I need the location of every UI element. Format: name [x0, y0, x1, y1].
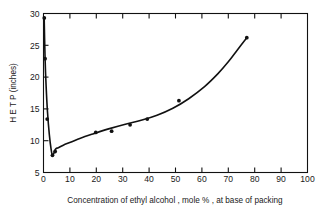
x-tick-label: 40 [144, 174, 154, 184]
data-point [51, 153, 55, 157]
x-tick-label: 90 [276, 174, 286, 184]
data-point [128, 123, 132, 127]
chart-figure: 0102030405060708090100 51015202530 Conce… [0, 0, 336, 214]
hetp-vs-concentration-chart: 0102030405060708090100 51015202530 Conce… [0, 0, 336, 214]
y-axis-label: H E T P (inches) [9, 63, 18, 123]
data-point [145, 117, 149, 121]
x-tick-label: 30 [118, 174, 128, 184]
data-point [110, 129, 114, 133]
data-point [94, 131, 98, 135]
x-tick-label: 100 [300, 174, 315, 184]
y-tick-label: 30 [30, 9, 40, 19]
x-axis-label: Concentration of ethyl alcohol , mole % … [67, 196, 283, 205]
data-point [53, 150, 57, 154]
data-point [245, 36, 249, 40]
data-point [177, 99, 181, 103]
data-point [42, 16, 46, 20]
x-tick-label: 60 [197, 174, 207, 184]
y-tick-label: 5 [35, 168, 40, 178]
x-tick-label: 10 [65, 174, 75, 184]
x-tick-label: 0 [41, 174, 46, 184]
x-tick-label: 80 [250, 174, 260, 184]
data-point [43, 57, 47, 61]
y-tick-label: 15 [30, 104, 40, 114]
x-tick-label: 20 [92, 174, 102, 184]
x-tick-label: 50 [171, 174, 181, 184]
y-tick-label: 10 [30, 136, 40, 146]
y-tick-label: 25 [30, 41, 40, 51]
y-tick-label: 20 [30, 72, 40, 82]
x-tick-label: 70 [224, 174, 234, 184]
data-point [45, 117, 49, 121]
